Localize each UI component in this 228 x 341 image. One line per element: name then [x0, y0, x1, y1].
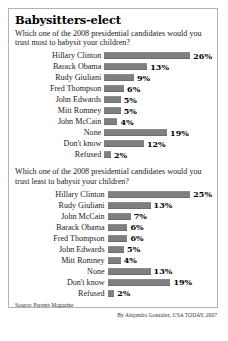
- chart-2-question: Which one of the 2008 presidential candi…: [15, 167, 212, 185]
- bar-row: Barack Obama13%: [14, 61, 212, 72]
- bar: [108, 279, 171, 286]
- bar-row-label: Mitt Romney: [14, 105, 104, 116]
- bar: [104, 118, 117, 125]
- bar-value-label: 25%: [193, 190, 212, 198]
- bar-row: Hillary Clinton26%: [14, 50, 212, 61]
- bar-row: Barack Obama6%: [14, 222, 212, 233]
- bar: [108, 202, 151, 209]
- bar-row-value-cell: 2%: [108, 288, 212, 299]
- bar: [104, 140, 144, 147]
- bar-row-value-cell: 6%: [108, 233, 212, 244]
- credit-line: By Alejandro Gonzalez, USA TODAY, 2007: [8, 312, 218, 318]
- bar-value-label: 4%: [120, 118, 133, 126]
- bar-value-label: 6%: [127, 85, 140, 93]
- chart-2-rows: Hillary Clinton25%Rudy Giuliani13%John M…: [14, 189, 212, 299]
- bar-row-label: Barack Obama: [14, 222, 108, 233]
- bar-value-label: 19%: [170, 129, 189, 137]
- chart-gap: [14, 160, 212, 167]
- bar-value-label: 2%: [114, 151, 127, 159]
- bar-row-label: None: [14, 266, 108, 277]
- bar-value-label: 4%: [124, 256, 137, 264]
- bar-row-value-cell: 6%: [104, 83, 212, 94]
- bar-row-value-cell: 12%: [104, 138, 212, 149]
- bar: [104, 151, 111, 158]
- bar-value-label: 5%: [124, 96, 137, 104]
- bar-row-value-cell: 19%: [108, 277, 212, 288]
- bar-value-label: 13%: [150, 63, 169, 71]
- bar-value-label: 13%: [154, 267, 173, 275]
- bar-row: John McCain7%: [14, 211, 212, 222]
- bar-row-label: Fred Thompson: [14, 83, 104, 94]
- bar-row: None13%: [14, 266, 212, 277]
- bar-row-value-cell: 5%: [108, 244, 212, 255]
- bar-row-value-cell: 5%: [104, 94, 212, 105]
- bar-row: Rudy Giuliani13%: [14, 200, 212, 211]
- bar: [104, 129, 167, 136]
- bar: [108, 257, 121, 264]
- bar-row-label: Barack Obama: [14, 61, 104, 72]
- bar-row: Don't know19%: [14, 277, 212, 288]
- bar-row-label: John Edwards: [14, 244, 108, 255]
- bar-value-label: 6%: [130, 234, 143, 242]
- bar-value-label: 5%: [124, 107, 137, 115]
- bar: [108, 290, 115, 297]
- bar-row-value-cell: 25%: [108, 189, 212, 200]
- bar-row-label: None: [14, 127, 104, 138]
- bar-row-label: Refused: [14, 149, 104, 160]
- bar-row: Don't know12%: [14, 138, 212, 149]
- chart-1: Hillary Clinton26%Barack Obama13%Rudy Gi…: [14, 50, 212, 160]
- bar: [108, 191, 191, 198]
- bar-value-label: 13%: [154, 201, 173, 209]
- bar-row-label: John Edwards: [14, 94, 104, 105]
- bar-value-label: 12%: [147, 140, 166, 148]
- bar: [104, 107, 121, 114]
- bar-row-value-cell: 6%: [108, 222, 212, 233]
- bar-row-value-cell: 13%: [104, 61, 212, 72]
- bar-row-label: John McCain: [14, 211, 108, 222]
- bar-row-label: Hillary Clinton: [14, 50, 104, 61]
- bar: [108, 235, 128, 242]
- bar-value-label: 2%: [117, 289, 130, 297]
- bar: [108, 246, 125, 253]
- bar-row-value-cell: 2%: [104, 149, 212, 160]
- bar-value-label: 6%: [130, 223, 143, 231]
- bar-row-label: Rudy Giuliani: [14, 72, 104, 83]
- bar-row: John Edwards5%: [14, 244, 212, 255]
- bar-row-value-cell: 4%: [104, 116, 212, 127]
- page-title: Babysitters-elect: [15, 14, 212, 27]
- bar: [108, 224, 128, 231]
- bar-row-label: Hillary Clinton: [14, 189, 108, 200]
- bar-row: Hillary Clinton25%: [14, 189, 212, 200]
- bar-value-label: 7%: [134, 212, 147, 220]
- bar-row: Rudy Giuliani9%: [14, 72, 212, 83]
- bar: [108, 268, 151, 275]
- bar-row: Fred Thompson6%: [14, 83, 212, 94]
- bar: [104, 63, 147, 70]
- bar-value-label: 5%: [127, 245, 140, 253]
- bar-row-label: Don't know: [14, 277, 108, 288]
- bar-row-label: Rudy Giuliani: [14, 200, 108, 211]
- bar: [104, 96, 121, 103]
- bar-row-value-cell: 9%: [104, 72, 212, 83]
- bar-row-value-cell: 26%: [104, 50, 212, 61]
- bar-row: John McCain4%: [14, 116, 212, 127]
- bar-row: Fred Thompson6%: [14, 233, 212, 244]
- bar-row: Mitt Romney5%: [14, 105, 212, 116]
- bar-row-label: Refused: [14, 288, 108, 299]
- infographic-frame: Babysitters-elect Which one of the 2008 …: [8, 8, 218, 308]
- bar-row-label: Mitt Romney: [14, 255, 108, 266]
- bar: [104, 52, 190, 59]
- bar-value-label: 26%: [193, 52, 212, 60]
- bar-row: Refused2%: [14, 149, 212, 160]
- bar-value-label: 19%: [173, 278, 192, 286]
- bar-row-label: Fred Thompson: [14, 233, 108, 244]
- bar-row-value-cell: 5%: [104, 105, 212, 116]
- bar-row-value-cell: 7%: [108, 211, 212, 222]
- bar-row-value-cell: 13%: [108, 200, 212, 211]
- bar-row-label: John McCain: [14, 116, 104, 127]
- bar-row: Refused2%: [14, 288, 212, 299]
- bar: [104, 85, 124, 92]
- source-note: Source: Parents Magazine: [15, 302, 212, 309]
- bar-value-label: 9%: [137, 74, 150, 82]
- bar-row-value-cell: 13%: [108, 266, 212, 277]
